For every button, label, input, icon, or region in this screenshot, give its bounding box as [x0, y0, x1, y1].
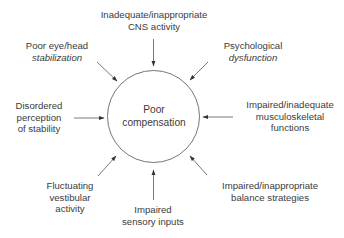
arrow-eyehead: [97, 62, 117, 81]
factor-vestibular: Fluctuating vestibular activity: [35, 180, 105, 215]
factor-balance: Impaired/inappropriate balance strategie…: [205, 180, 335, 203]
factor-cns: Inadequate/inappropriate CNS activity: [88, 9, 220, 32]
arrow-psych: [190, 62, 208, 80]
arrow-vestibular: [98, 156, 116, 176]
factor-psych: Psychological dysfunction: [198, 40, 308, 63]
arrow-balance: [190, 156, 207, 175]
factor-musculo: Impaired/inadequate musculoskeletal func…: [235, 99, 344, 134]
factor-sensory: Impaired sensory inputs: [103, 204, 203, 227]
factor-eyehead: Poor eye/head stabilization: [17, 40, 97, 63]
factor-perception: Disordered perception of stability: [4, 100, 74, 135]
center-label: Poor compensation: [113, 104, 195, 129]
